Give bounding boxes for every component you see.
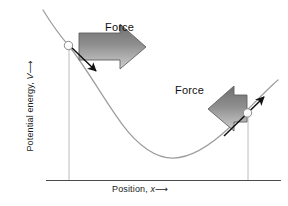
y-axis-arrow-icon: ⟶ <box>25 60 35 73</box>
force-label-left: Force <box>105 21 134 33</box>
x-axis-label-text: Position, <box>112 184 151 194</box>
y-axis-label-variable: V <box>25 73 35 79</box>
ball-left <box>64 41 72 49</box>
y-axis-label: Potential energy, V⟶ <box>25 37 35 175</box>
force-label-right: Force <box>175 84 204 96</box>
force-arrow-right <box>208 86 247 131</box>
ball-right <box>243 109 251 117</box>
figure-canvas <box>0 0 288 206</box>
y-axis-label-text: Potential energy, <box>25 80 35 152</box>
x-axis-arrow-icon: ⟶ <box>155 184 168 194</box>
x-axis-label: Position, x⟶ <box>112 184 168 194</box>
potential-energy-figure: Force Force Position, x⟶ Potential energ… <box>0 0 288 206</box>
potential-energy-curve <box>43 10 278 158</box>
